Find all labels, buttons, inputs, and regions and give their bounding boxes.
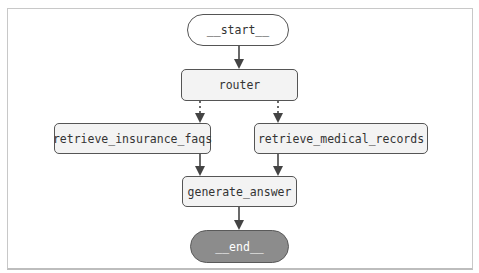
node-start-label: __start__ [207, 23, 269, 37]
edge-insurance-generate [195, 154, 205, 176]
node-generate-answer[interactable]: generate_answer [182, 176, 297, 207]
node-end-label: __end__ [215, 240, 263, 254]
edge-router-medical [273, 101, 283, 123]
node-retrieve-medical-records[interactable]: retrieve_medical_records [254, 123, 428, 154]
node-router-label: router [219, 78, 261, 92]
node-end[interactable]: __end__ [190, 230, 289, 263]
node-retrieve-insurance-faqs[interactable]: retrieve_insurance_faqs [54, 123, 211, 154]
edge-generate-end [234, 207, 244, 230]
node-router[interactable]: router [181, 69, 298, 101]
node-generate-answer-label: generate_answer [188, 185, 292, 199]
edge-router-insurance [195, 101, 205, 123]
edge-medical-generate [273, 154, 283, 176]
node-retrieve-insurance-faqs-label: retrieve_insurance_faqs [53, 132, 212, 146]
node-retrieve-medical-records-label: retrieve_medical_records [258, 132, 424, 146]
node-start[interactable]: __start__ [187, 14, 289, 46]
edge-start-router [234, 46, 244, 69]
